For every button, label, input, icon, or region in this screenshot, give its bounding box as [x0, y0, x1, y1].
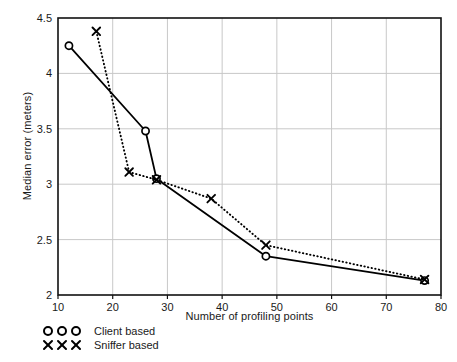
data-point [65, 42, 72, 49]
data-point [262, 241, 270, 249]
data-point [125, 168, 133, 176]
data-series-layer [65, 27, 428, 284]
gridlines [58, 18, 441, 295]
legend: Client based Sniffer based [40, 324, 159, 352]
legend-label-sniffer-based: Sniffer based [94, 338, 159, 352]
axis-frame [58, 18, 441, 295]
data-point [93, 27, 101, 35]
series-line-sniffer-based [96, 31, 424, 279]
legend-item-sniffer-based[interactable]: Sniffer based [40, 338, 159, 352]
legend-marker-circle [40, 324, 84, 338]
data-point [207, 195, 215, 203]
legend-item-client-based[interactable]: Client based [40, 324, 159, 338]
legend-label-client-based: Client based [94, 324, 155, 338]
series-line-client-based [69, 46, 425, 281]
data-point [262, 253, 269, 260]
data-point [142, 127, 149, 134]
figure: Median error (meters) Number of profilin… [0, 0, 457, 362]
legend-marker-x [40, 338, 84, 352]
plot-canvas [0, 0, 457, 362]
